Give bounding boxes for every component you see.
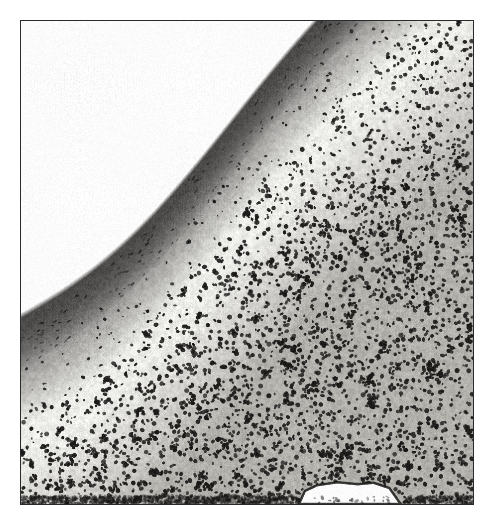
- micrograph-canvas: [21, 21, 473, 504]
- figure-root: [0, 0, 494, 516]
- plate-frame: [20, 20, 474, 505]
- histology-micrograph: [21, 21, 473, 504]
